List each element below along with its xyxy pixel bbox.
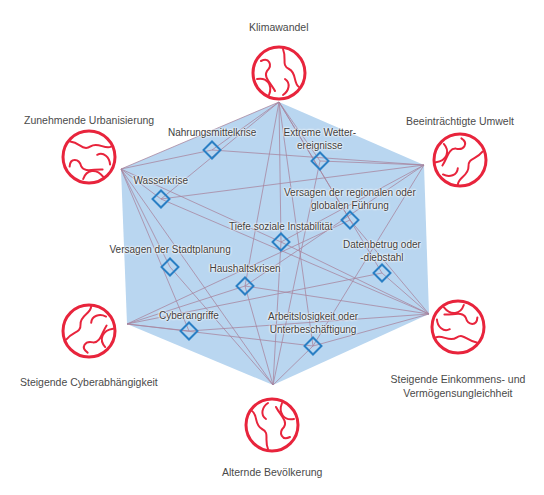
globe-icon xyxy=(253,47,305,99)
risk-label-nahrungsmittelkrise-line: Nahrungsmittelkrise xyxy=(168,126,256,139)
globe-icon xyxy=(246,399,298,451)
trend-label-steigende-cyberabhaengigkeit: Steigende Cyberabhängigkeit xyxy=(20,375,158,389)
risk-label-versagen-regionale-globale-fuehrung-line: Versagen der regionalen oder xyxy=(284,186,416,199)
globe-icon xyxy=(429,297,490,356)
trend-label-beeintraechtigte-umwelt: Beeinträchtigte Umwelt xyxy=(406,114,514,128)
trend-label-steigende-ungleichheit: Steigende Einkommens- undVermögensunglei… xyxy=(391,372,526,400)
trend-label-alternde-bevoelkerung: Alternde Bevölkerung xyxy=(222,465,322,479)
trend-label-steigende-ungleichheit-line: Steigende Einkommens- und xyxy=(391,372,526,386)
risk-label-arbeitslosigkeit-unterbeschaeftigung-line: Arbeitslosigkeit oder xyxy=(268,310,358,323)
risk-label-datenbetrug-diebstahl-line: Datenbetrug oder xyxy=(343,238,421,251)
risk-label-extreme-wetterereignisse: Extreme Wetter-ereignisse xyxy=(284,126,357,152)
trend-label-klimawandel-line: Klimawandel xyxy=(249,20,309,34)
trend-label-steigende-ungleichheit-line: Vermögensungleichheit xyxy=(391,386,526,400)
risk-label-wasserkrise-line: Wasserkrise xyxy=(134,174,189,187)
trend-label-klimawandel: Klimawandel xyxy=(249,20,309,34)
risk-label-datenbetrug-diebstahl: Datenbetrug oder-diebstahl xyxy=(343,238,421,264)
risk-label-versagen-regionale-globale-fuehrung: Versagen der regionalen oderglobalen Füh… xyxy=(284,186,416,212)
risk-trend-network-diagram xyxy=(0,0,544,495)
globe-icon xyxy=(430,129,491,188)
risk-label-nahrungsmittelkrise: Nahrungsmittelkrise xyxy=(168,126,256,139)
trend-label-steigende-cyberabhaengigkeit-line: Steigende Cyberabhängigkeit xyxy=(20,375,158,389)
risk-label-arbeitslosigkeit-unterbeschaeftigung: Arbeitslosigkeit oderUnterbeschäftigung xyxy=(268,310,358,336)
risk-label-haushaltskrisen: Haushaltskrisen xyxy=(210,262,281,275)
risk-label-extreme-wetterereignisse-line: Extreme Wetter- xyxy=(284,126,357,139)
risk-label-versagen-stadtplanung: Versagen der Stadtplanung xyxy=(110,243,231,256)
trend-label-beeintraechtigte-umwelt-line: Beeinträchtigte Umwelt xyxy=(406,114,514,128)
globe-icon xyxy=(57,128,118,187)
trend-label-alternde-bevoelkerung-line: Alternde Bevölkerung xyxy=(222,465,322,479)
risk-label-wasserkrise: Wasserkrise xyxy=(134,174,189,187)
globe-icon xyxy=(58,303,119,362)
risk-label-haushaltskrisen-line: Haushaltskrisen xyxy=(210,262,281,275)
trend-label-zunehmende-urbanisierung-line: Zunehmende Urbanisierung xyxy=(24,113,154,127)
risk-label-versagen-stadtplanung-line: Versagen der Stadtplanung xyxy=(110,243,231,256)
trend-label-zunehmende-urbanisierung: Zunehmende Urbanisierung xyxy=(24,113,154,127)
risk-label-arbeitslosigkeit-unterbeschaeftigung-line: Unterbeschäftigung xyxy=(268,323,358,336)
